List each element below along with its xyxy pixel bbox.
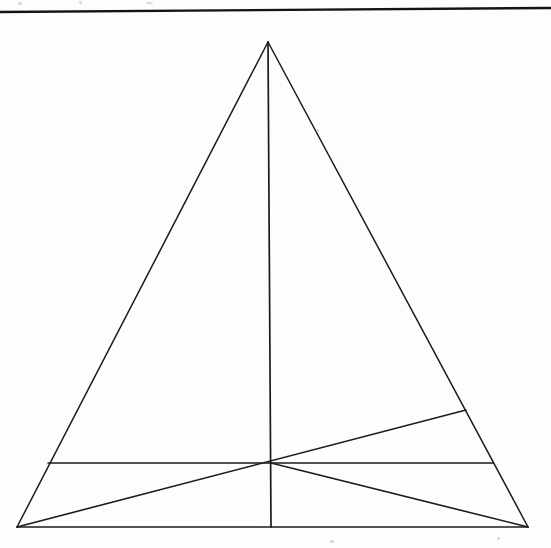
horizontal-rule bbox=[0, 8, 551, 12]
scan-speck bbox=[497, 537, 500, 540]
vertical-median bbox=[268, 42, 271, 527]
scan-speck bbox=[316, 129, 319, 132]
scan-speck bbox=[79, 1, 82, 4]
triangle-left-side bbox=[17, 42, 268, 527]
scan-speck bbox=[18, 2, 22, 5]
figure-page bbox=[0, 0, 551, 548]
scan-speck bbox=[146, 2, 153, 4]
geometric-figure bbox=[0, 0, 551, 548]
triangle-right-side bbox=[268, 42, 528, 527]
triangle-segments-layer bbox=[17, 42, 528, 527]
header-rule-layer bbox=[0, 8, 551, 12]
cevian-left-base-to-hub bbox=[17, 410, 466, 527]
scan-speck bbox=[330, 540, 334, 543]
cevian-right-base-to-hub bbox=[271, 463, 528, 527]
